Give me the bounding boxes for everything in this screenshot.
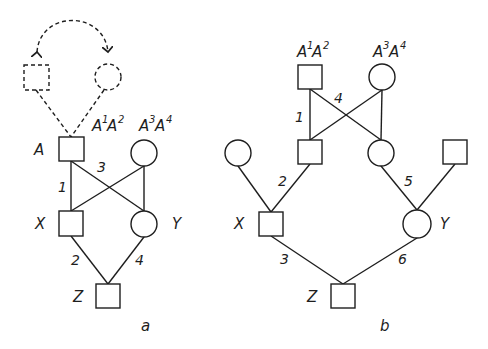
genotype-a1a2: A 1 A 2 xyxy=(296,40,329,61)
panel-b: X Y Z A 1 A 2 A 3 A 4 1 2 3 4 5 6 b xyxy=(225,40,467,335)
label-x: X xyxy=(233,215,245,233)
node-right-male xyxy=(443,140,467,164)
dashed-male-ancestor xyxy=(24,65,49,90)
node-top-male xyxy=(298,65,322,89)
genotype-superscript: 2 xyxy=(323,40,329,51)
genotype-base: A xyxy=(138,117,149,135)
path-number-5: 5 xyxy=(404,173,413,189)
node-left-female xyxy=(225,140,251,166)
path-number-4: 4 xyxy=(135,252,144,268)
panel-a: A X Y Z A 1 A 2 A 3 A 4 1 2 3 4 a xyxy=(24,21,183,336)
path-number-1: 1 xyxy=(295,109,304,125)
genotype-a3a4: A 3 A 4 xyxy=(138,114,172,135)
genotype-superscript: 4 xyxy=(166,114,172,125)
genotype-base: A xyxy=(296,43,307,61)
edge-top-female-to-mid-female xyxy=(381,90,382,140)
node-x xyxy=(259,212,283,236)
genotype-base: A xyxy=(372,43,383,61)
panel-caption-a: a xyxy=(141,317,150,335)
label-y: Y xyxy=(172,215,183,233)
genotype-superscript: 4 xyxy=(400,40,406,51)
label-y: Y xyxy=(440,215,451,233)
dashed-line-male-to-a xyxy=(36,90,71,137)
label-x: X xyxy=(34,215,46,233)
genotype-base: A xyxy=(91,117,102,135)
exchange-arc-arrow-icon xyxy=(37,21,108,53)
node-a-male xyxy=(59,137,84,161)
genotype-superscript: 2 xyxy=(118,114,124,125)
path-number-6: 6 xyxy=(398,251,407,267)
dashed-female-ancestor xyxy=(95,64,121,90)
node-a-female xyxy=(131,140,157,166)
panel-caption-b: b xyxy=(380,317,390,335)
node-mid-male xyxy=(298,140,322,164)
path-number-1: 1 xyxy=(58,179,67,195)
node-z xyxy=(96,284,120,308)
edge-right-square-to-y xyxy=(417,164,455,210)
path-number-3: 3 xyxy=(97,159,106,175)
genotype-base: A xyxy=(154,117,165,135)
edge-left-circle-to-x xyxy=(238,166,271,212)
pedigree-diagram: A X Y Z A 1 A 2 A 3 A 4 1 2 3 4 a xyxy=(0,0,488,349)
node-mid-female xyxy=(368,140,394,166)
genotype-base: A xyxy=(311,43,322,61)
path-number-4: 4 xyxy=(334,90,343,106)
path-number-2: 2 xyxy=(71,252,80,268)
label-z: Z xyxy=(72,288,84,306)
genotype-a3a4: A 3 A 4 xyxy=(372,40,406,61)
path-number-2: 2 xyxy=(278,173,287,189)
label-a: A xyxy=(33,141,44,159)
label-z: Z xyxy=(306,288,318,306)
genotype-base: A xyxy=(388,43,399,61)
genotype-base: A xyxy=(106,117,117,135)
edge-mid-male-to-x xyxy=(271,164,310,212)
node-x xyxy=(59,211,83,236)
node-z xyxy=(331,284,355,308)
node-y xyxy=(403,210,431,238)
path-number-3: 3 xyxy=(280,251,289,267)
node-top-female xyxy=(369,64,395,90)
node-y xyxy=(131,211,157,237)
genotype-a1a2: A 1 A 2 xyxy=(91,114,124,135)
